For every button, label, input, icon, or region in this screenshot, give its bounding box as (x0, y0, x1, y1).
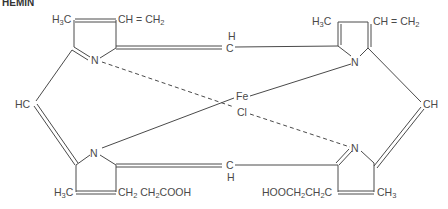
tr-vinyl-label: CH = CH2 (373, 15, 419, 29)
pyrrole-bottom-right (336, 149, 374, 194)
pyrrole-bottom-left (76, 155, 116, 194)
br-methyl-label: CH3 (377, 186, 396, 200)
tr-methyl-label: H3C (312, 15, 332, 29)
top-meso-h: H (228, 30, 236, 42)
bottom-meso-h: H (227, 171, 235, 183)
nitrogen-top-right: N (351, 56, 359, 68)
bottom-meso-c: C (226, 159, 234, 171)
iron-atom: Fe (236, 90, 248, 102)
nitrogen-bottom-left: N (90, 147, 98, 159)
right-meso-ch: CH (423, 98, 438, 110)
hemin-structure-diagram: HEMIN H3C CH = CH2 N H C H3C CH = CH2 N … (0, 0, 448, 209)
nitrogen-top-left: N (91, 54, 99, 66)
diagram-title: HEMIN (2, 0, 34, 8)
bl-propionic-label: CH2 CH2COOH (118, 186, 191, 200)
bl-methyl-label: H3C (54, 186, 74, 200)
top-meso-c: C (226, 42, 234, 54)
chlorine-atom: Cl (237, 106, 247, 118)
tl-vinyl-label: CH = CH2 (118, 13, 164, 27)
nitrogen-bottom-right: N (351, 142, 359, 154)
tl-methyl-label: H3C (52, 13, 72, 27)
pyrrole-top-right (338, 22, 371, 56)
br-propionic-label: HOOCH2CH2C (262, 186, 333, 200)
left-meso-hc: HC (15, 98, 31, 110)
